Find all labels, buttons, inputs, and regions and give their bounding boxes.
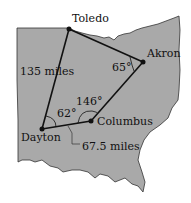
label-distance-dayton-columbus: 67.5 miles bbox=[82, 140, 140, 153]
map-svg: Toledo Akron Columbus Dayton 135 miles 6… bbox=[0, 0, 191, 203]
label-angle-akron: 65° bbox=[112, 61, 132, 74]
label-akron: Akron bbox=[146, 47, 181, 60]
label-angle-columbus: 146° bbox=[76, 95, 103, 108]
akron-dot bbox=[141, 60, 146, 65]
label-columbus: Columbus bbox=[97, 115, 153, 128]
label-toledo: Toledo bbox=[72, 12, 109, 25]
label-angle-dayton: 62° bbox=[57, 107, 77, 120]
label-distance-toledo-dayton: 135 miles bbox=[20, 65, 74, 78]
columbus-dot bbox=[89, 119, 94, 124]
toledo-dot bbox=[67, 27, 72, 32]
label-dayton: Dayton bbox=[21, 131, 61, 144]
ohio-diagram: Toledo Akron Columbus Dayton 135 miles 6… bbox=[0, 0, 191, 203]
